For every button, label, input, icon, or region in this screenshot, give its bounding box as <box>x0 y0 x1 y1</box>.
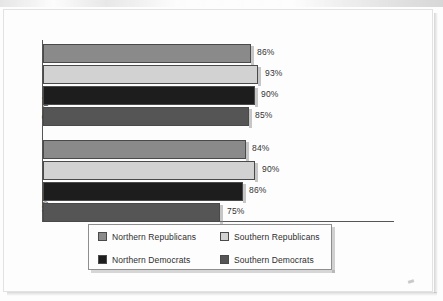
bar-house-southern-republicans[interactable] <box>43 161 255 180</box>
legend-shadow <box>91 270 335 273</box>
bar-value-label: 93% <box>265 68 283 78</box>
bar-shadow <box>249 109 252 128</box>
legend-label: Northern Republicans <box>112 232 196 242</box>
bar-row: 86% <box>43 43 394 64</box>
bar-shadow <box>251 46 254 65</box>
bar-row: 84% <box>43 139 394 160</box>
scanned-page: Senate House 86% 93% 90% <box>0 0 443 301</box>
bar-row: 85% <box>43 106 394 127</box>
legend-swatch-icon <box>98 255 107 264</box>
bar-shadow <box>220 205 223 224</box>
scan-speck <box>408 279 415 284</box>
legend-item-northern-republicans[interactable]: Northern Republicans <box>89 232 211 242</box>
bar-shadow <box>243 184 246 203</box>
bar-senate-southern-democrats[interactable] <box>43 107 249 126</box>
legend-label: Northern Democrats <box>112 255 190 265</box>
legend-label: Southern Democrats <box>234 255 314 265</box>
bar-value-label: 90% <box>261 89 279 99</box>
bar-shadow <box>258 67 261 86</box>
legend-swatch-icon <box>220 232 229 241</box>
bar-shadow <box>246 142 249 161</box>
bar-chart-plot-area: Senate House 86% 93% 90% <box>42 40 394 222</box>
legend-label: Southern Republicans <box>234 232 320 242</box>
bar-house-northern-republicans[interactable] <box>43 140 246 159</box>
bar-group-senate: 86% 93% 90% 85% <box>43 43 394 127</box>
bar-senate-southern-republicans[interactable] <box>43 65 258 84</box>
legend-item-northern-democrats[interactable]: Northern Democrats <box>89 255 211 265</box>
bar-house-southern-democrats[interactable] <box>43 203 220 222</box>
bar-group-house: 84% 90% 86% 75% <box>43 139 394 223</box>
scan-artifact-top-text <box>0 0 443 7</box>
legend-item-southern-republicans[interactable]: Southern Republicans <box>211 232 333 242</box>
bar-row: 75% <box>43 202 394 223</box>
bar-row: 86% <box>43 181 394 202</box>
legend-swatch-icon <box>220 255 229 264</box>
bar-senate-northern-republicans[interactable] <box>43 44 251 63</box>
bar-value-label: 86% <box>257 47 275 57</box>
bar-shadow <box>255 88 258 107</box>
figure-shadow <box>7 292 437 296</box>
figure-shadow <box>434 13 438 293</box>
chart-legend: Northern Republicans Southern Republican… <box>88 224 332 270</box>
bar-value-label: 86% <box>249 185 267 195</box>
bar-shadow <box>255 163 258 182</box>
bar-senate-northern-democrats[interactable] <box>43 86 255 105</box>
bar-value-label: 75% <box>227 206 245 216</box>
bar-value-label: 90% <box>262 164 280 174</box>
bar-value-label: 84% <box>252 143 270 153</box>
legend-item-southern-democrats[interactable]: Southern Democrats <box>211 255 333 265</box>
bar-row: 90% <box>43 85 394 106</box>
bar-value-label: 85% <box>255 110 273 120</box>
bar-row: 93% <box>43 64 394 85</box>
bar-house-northern-democrats[interactable] <box>43 182 243 201</box>
legend-swatch-icon <box>98 232 107 241</box>
bar-row: 90% <box>43 160 394 181</box>
